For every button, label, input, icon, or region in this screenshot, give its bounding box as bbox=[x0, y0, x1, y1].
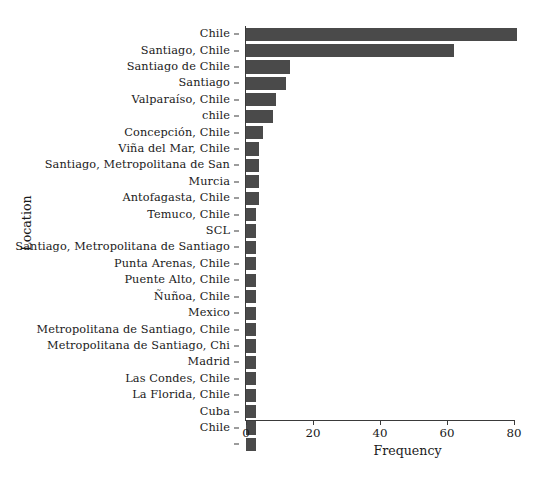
y-axis-tick: SCL bbox=[0, 223, 239, 239]
x-axis-tick-mark bbox=[447, 420, 448, 425]
x-axis-title-text: Frequency bbox=[373, 443, 441, 458]
bar-chart-figure: Location ChileSantiago, ChileSantiago de… bbox=[0, 0, 547, 477]
y-axis-tick: Chile bbox=[0, 26, 239, 42]
y-axis-tick-mark bbox=[234, 427, 239, 428]
bar-row bbox=[246, 206, 514, 222]
y-axis-tick: chile bbox=[0, 108, 239, 124]
bar bbox=[246, 224, 256, 237]
y-axis-tick-mark bbox=[234, 345, 239, 346]
y-axis-tick: Mexico bbox=[0, 305, 239, 321]
y-axis-tick-label: Murcia bbox=[188, 176, 230, 188]
bar bbox=[246, 339, 256, 352]
y-axis-tick: Santiago de Chile bbox=[0, 59, 239, 75]
y-axis-tick-mark bbox=[234, 280, 239, 281]
x-axis-tick-mark bbox=[313, 420, 314, 425]
y-axis-tick-label: chile bbox=[202, 110, 230, 122]
y-axis-tick-mark bbox=[234, 34, 239, 35]
bar-row bbox=[246, 26, 514, 42]
y-axis-tick-label: Chile bbox=[200, 422, 230, 434]
y-axis-tick-label: Santiago bbox=[179, 77, 230, 89]
y-axis-tick-label: Santiago, Chile bbox=[141, 45, 230, 57]
bar-row bbox=[246, 42, 514, 58]
bar-row bbox=[246, 371, 514, 387]
bar-row bbox=[246, 223, 514, 239]
y-axis-tick: Antofagasta, Chile bbox=[0, 190, 239, 206]
y-axis-tick-mark bbox=[234, 198, 239, 199]
y-axis-tick-mark bbox=[234, 99, 239, 100]
y-axis-tick: Madrid bbox=[0, 354, 239, 370]
y-axis-tick: Valparaíso, Chile bbox=[0, 92, 239, 108]
y-axis-tick-mark bbox=[234, 83, 239, 84]
y-axis-tick-mark bbox=[234, 116, 239, 117]
y-axis-tick: Viña del Mar, Chile bbox=[0, 141, 239, 157]
x-axis-tick-mark bbox=[246, 420, 247, 425]
y-axis-tick-mark bbox=[234, 411, 239, 412]
y-axis-tick: Murcia bbox=[0, 174, 239, 190]
y-axis-tick-mark bbox=[234, 378, 239, 379]
bar-row bbox=[246, 354, 514, 370]
y-axis-tick-label: Punta Arenas, Chile bbox=[114, 258, 230, 270]
bar bbox=[246, 323, 256, 336]
y-axis-tick: Santiago, Chile bbox=[0, 42, 239, 58]
y-axis-tick-label: Mexico bbox=[188, 307, 230, 319]
y-axis-tick-label: SCL bbox=[206, 225, 230, 237]
y-axis-tick-label: Temuco, Chile bbox=[147, 209, 230, 221]
y-axis-tick-mark bbox=[234, 329, 239, 330]
y-axis-tick: Cuba bbox=[0, 403, 239, 419]
bar-row bbox=[246, 338, 514, 354]
y-axis-tick-label: Santiago, Metropolitana de Santiago bbox=[15, 241, 230, 253]
x-axis-tick-label: 40 bbox=[372, 427, 387, 440]
bar bbox=[246, 110, 273, 123]
x-axis-tick-label: 60 bbox=[439, 427, 454, 440]
y-axis-tick-label: Ñuñoa, Chile bbox=[154, 291, 230, 303]
bar bbox=[246, 77, 286, 90]
bar-row bbox=[246, 289, 514, 305]
x-axis-title: Frequency bbox=[0, 443, 547, 458]
bar-row bbox=[246, 403, 514, 419]
y-axis-tick-label: Chile bbox=[200, 28, 230, 40]
y-axis-tick: La Florida, Chile bbox=[0, 387, 239, 403]
y-axis-tick-label: Cuba bbox=[200, 406, 230, 418]
bar-row bbox=[246, 256, 514, 272]
y-axis-tick-mark bbox=[234, 247, 239, 248]
y-axis-tick-label: Valparaíso, Chile bbox=[132, 94, 231, 106]
y-axis-tick-mark bbox=[234, 50, 239, 51]
y-axis-tick-mark bbox=[234, 263, 239, 264]
bar bbox=[246, 389, 256, 402]
y-axis-tick: Santiago bbox=[0, 75, 239, 91]
x-axis-tick-mark bbox=[514, 420, 515, 425]
y-axis-tick-label: Santiago, Metropolitana de San bbox=[45, 159, 230, 171]
bar bbox=[246, 44, 454, 57]
y-axis-tick: Chile bbox=[0, 420, 239, 436]
bar bbox=[246, 274, 256, 287]
y-axis-tick: Punta Arenas, Chile bbox=[0, 256, 239, 272]
y-axis-tick-label: La Florida, Chile bbox=[132, 389, 230, 401]
y-axis-tick-mark bbox=[234, 231, 239, 232]
bar bbox=[246, 159, 259, 172]
y-axis-tick-mark bbox=[234, 149, 239, 150]
y-axis-tick-label: Metropolitana de Santiago, Chile bbox=[36, 324, 230, 336]
y-axis-tick: Santiago, Metropolitana de Santiago bbox=[0, 239, 239, 255]
x-axis-tick-label: 0 bbox=[242, 427, 250, 440]
bar bbox=[246, 28, 517, 41]
y-axis-tick-label: Concepción, Chile bbox=[124, 127, 230, 139]
x-axis-tick-label: 80 bbox=[506, 427, 521, 440]
bar bbox=[246, 372, 256, 385]
y-axis-tick-label: Puente Alto, Chile bbox=[124, 274, 230, 286]
bar bbox=[246, 93, 276, 106]
bar-row bbox=[246, 190, 514, 206]
bar bbox=[246, 290, 256, 303]
y-axis-tick-mark bbox=[234, 313, 239, 314]
bar-row bbox=[246, 272, 514, 288]
x-axis-tick-label: 20 bbox=[305, 427, 320, 440]
y-axis-tick-label: Metropolitana de Santiago, Chi bbox=[47, 340, 230, 352]
y-axis-tick: Santiago, Metropolitana de San bbox=[0, 157, 239, 173]
bar-row bbox=[246, 321, 514, 337]
bar bbox=[246, 126, 263, 139]
bar-row bbox=[246, 387, 514, 403]
bar bbox=[246, 257, 256, 270]
y-axis-tick-mark bbox=[234, 362, 239, 363]
bar-row bbox=[246, 108, 514, 124]
plot-area bbox=[246, 26, 514, 420]
bar bbox=[246, 241, 256, 254]
